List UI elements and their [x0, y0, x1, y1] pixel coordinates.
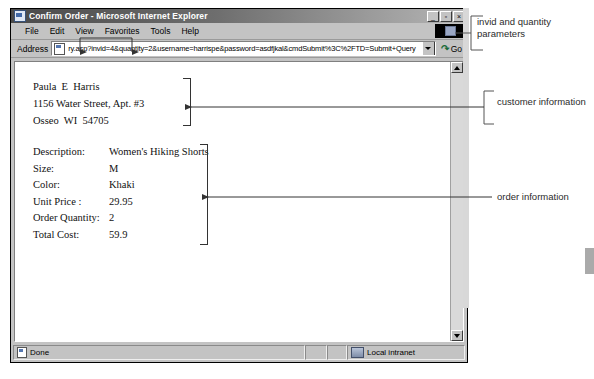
internet-explorer-window: Confirm Order - Microsoft Internet Explo… [10, 8, 468, 363]
order-information-block: Description: Women's Hiking Shorts Size:… [33, 144, 209, 243]
minimize-button[interactable]: _ [427, 11, 439, 22]
local-intranet-icon [351, 347, 364, 358]
menu-item-help[interactable]: Help [181, 26, 198, 36]
order-row: Order Quantity: 2 [33, 210, 209, 227]
ie-document-icon [14, 10, 26, 22]
window-controls: _ ▫ × [427, 11, 466, 22]
annotation-label-customer: customer information [497, 96, 589, 108]
order-value: Women's Hiking Shorts [109, 144, 209, 161]
go-button-label: Go [451, 44, 462, 54]
address-input[interactable]: ry.asp?invid=4&quantity=2&username=harri… [51, 41, 435, 56]
customer-citystate: Osseo WI 54705 [33, 112, 144, 129]
menu-item-favorites[interactable]: Favorites [105, 26, 140, 36]
menu-item-edit[interactable]: Edit [50, 26, 65, 36]
title-bar: Confirm Order - Microsoft Internet Explo… [11, 9, 467, 23]
address-url-text: ry.asp?invid=4&quantity=2&username=harri… [68, 44, 421, 53]
customer-street: 1156 Water Street, Apt. #3 [33, 95, 144, 112]
address-bar: Address ry.asp?invid=4&quantity=2&userna… [11, 40, 467, 58]
page-icon [17, 347, 27, 358]
security-zone-panel: Local intranet [347, 345, 465, 360]
order-value: 59.9 [109, 227, 127, 244]
scroll-down-icon[interactable] [451, 330, 463, 341]
order-label: Color: [33, 177, 109, 194]
status-message-panel: Done [13, 345, 305, 360]
page-icon [54, 43, 65, 55]
window-title: Confirm Order - Microsoft Internet Explo… [29, 11, 427, 21]
order-row: Size: M [33, 161, 209, 178]
order-row: Description: Women's Hiking Shorts [33, 144, 209, 161]
order-value: M [109, 161, 118, 178]
order-row: Unit Price : 29.95 [33, 194, 209, 211]
chevron-down-icon[interactable] [422, 41, 435, 56]
status-message: Done [30, 348, 49, 357]
order-bracket [200, 144, 208, 245]
scroll-up-icon[interactable] [451, 62, 463, 73]
order-label: Total Cost: [33, 227, 109, 244]
page-gutter-shadow [463, 8, 469, 308]
menu-item-file[interactable]: File [25, 26, 39, 36]
order-row: Total Cost: 59.9 [33, 227, 209, 244]
restore-button[interactable]: ▫ [440, 11, 452, 22]
order-value: Khaki [109, 177, 135, 194]
order-value: 2 [109, 210, 114, 227]
page-edge-marker [585, 248, 594, 274]
document-viewport: Paula E Harris 1156 Water Street, Apt. #… [14, 61, 464, 342]
customer-information-block: Paula E Harris 1156 Water Street, Apt. #… [33, 78, 144, 129]
page-content: Paula E Harris 1156 Water Street, Apt. #… [15, 62, 450, 341]
menu-item-view[interactable]: View [75, 26, 93, 36]
menu-bar: File Edit View Favorites Tools Help [11, 23, 467, 40]
address-label: Address [13, 44, 51, 54]
menu-item-tools[interactable]: Tools [151, 26, 171, 36]
order-label: Unit Price : [33, 194, 109, 211]
annotation-label-invid: invid and quantity parameters [477, 16, 589, 40]
customer-bracket [183, 78, 191, 126]
order-label: Size: [33, 161, 109, 178]
ie-logo-icon [435, 24, 465, 38]
customer-name: Paula E Harris [33, 78, 144, 95]
order-label: Order Quantity: [33, 210, 109, 227]
order-label: Description: [33, 144, 109, 161]
status-spacer-2 [327, 345, 347, 360]
security-zone-label: Local intranet [367, 348, 415, 357]
go-arrow-icon: ↷ [441, 43, 449, 54]
status-bar: Done Local intranet [13, 345, 465, 360]
annotation-label-order: order information [497, 191, 594, 203]
order-row: Color: Khaki [33, 177, 209, 194]
go-button[interactable]: ↷ Go [436, 43, 465, 54]
order-value: 29.95 [109, 194, 133, 211]
vertical-scrollbar[interactable] [450, 62, 463, 341]
menu-item-list: File Edit View Favorites Tools Help [11, 26, 199, 36]
status-spacer-1 [305, 345, 327, 360]
